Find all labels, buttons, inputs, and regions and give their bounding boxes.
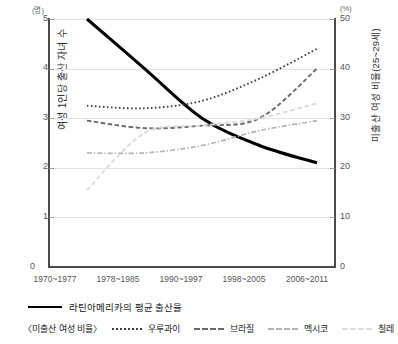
- series-layer: [49, 19, 335, 267]
- legend-label-chile: 칠레: [378, 322, 394, 335]
- left-tick-2: 2: [28, 161, 48, 171]
- legend-swatch-solid-line: [28, 306, 62, 308]
- x-label-1: 1978~1985: [87, 274, 149, 284]
- left-tick-3: 3: [28, 112, 48, 122]
- legend-swatch-light-dashed-line: [342, 328, 372, 330]
- right-tick-20: 20: [340, 161, 362, 171]
- right-tick-30: 30: [340, 112, 362, 122]
- left-tick-0: 0: [30, 261, 35, 271]
- legend-item-chile: 칠레: [342, 322, 394, 335]
- x-label-0: 1970~1977: [24, 274, 86, 284]
- legend-item-brazil: 브라질: [194, 322, 254, 335]
- legend-swatch-dashdot-line: [268, 328, 298, 330]
- legend-item-uruguay: 우루과이: [112, 322, 180, 335]
- legend-primary-row: 라틴아메리카의 평균 출산율: [28, 300, 182, 314]
- x-label-4: 2006~2011: [276, 274, 338, 284]
- series-line-우루과이: [87, 49, 317, 109]
- legend-group-label: 〈미출산 여성 비율〉: [23, 322, 102, 335]
- legend-swatch-dotted-line: [112, 328, 142, 330]
- legend-label-uruguay: 우루과이: [148, 322, 180, 335]
- legend-label-brazil: 브라질: [230, 322, 254, 335]
- left-tick-5: 5: [28, 13, 48, 23]
- right-tick-50: 50: [340, 13, 362, 23]
- series-line-칠레: [87, 103, 317, 190]
- right-axis-unit: (%): [340, 4, 352, 13]
- right-tick-40: 40: [340, 62, 362, 72]
- plot-area: [49, 19, 335, 267]
- right-tick-0: 0: [340, 261, 345, 271]
- legend-swatch-dashed-line: [194, 328, 224, 330]
- series-line-라틴아메리카의 평균 출산율: [87, 19, 317, 163]
- legend-label-latin-america-fertility: 라틴아메리카의 평균 출산율: [69, 300, 182, 314]
- legend-label-mexico: 멕시코: [304, 322, 328, 335]
- legend-item-mexico: 멕시코: [268, 322, 328, 335]
- x-label-2: 1990~1997: [150, 274, 212, 284]
- x-label-3: 1998~2005: [213, 274, 275, 284]
- right-tick-10: 10: [340, 211, 362, 221]
- legend-secondary-row: 〈미출산 여성 비율〉 우루과이 브라질 멕시코 칠레: [23, 322, 398, 335]
- left-tick-1: 1: [28, 211, 48, 221]
- left-tick-4: 4: [28, 62, 48, 72]
- right-axis-title: 미출산 여성 비율(25~29세): [368, 10, 382, 160]
